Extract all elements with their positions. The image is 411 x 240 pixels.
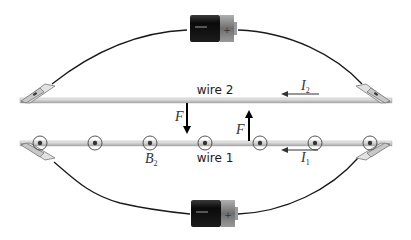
wire-1-label: wire 1 — [197, 151, 234, 165]
wire-2-label: wire 2 — [197, 83, 234, 97]
plus-terminal-icon: + — [224, 210, 232, 220]
current-i1-subscript: 1 — [306, 158, 310, 167]
lead-wire-top-right — [238, 30, 362, 84]
wire-2-rod — [20, 98, 392, 103]
plus-terminal-icon: + — [223, 25, 231, 35]
force-label-wire1: F — [235, 122, 245, 137]
battery-top: + — [190, 15, 237, 42]
lead-wire-bottom-left — [54, 162, 190, 214]
battery-bottom: + — [191, 200, 238, 227]
lead-wire-top-left — [52, 30, 187, 84]
field-b2-label: B2 — [145, 151, 158, 168]
lead-wires — [52, 30, 362, 214]
force-label-wire2: F — [174, 109, 184, 124]
current-i1-label: I1 — [300, 150, 310, 167]
lead-wire-bottom-right — [238, 158, 358, 214]
field-b-subscript: 2 — [154, 159, 158, 168]
current-i2-subscript: 2 — [306, 86, 310, 95]
parallel-wires-diagram: + + — [0, 0, 411, 240]
current-i2-label: I2 — [300, 78, 310, 95]
